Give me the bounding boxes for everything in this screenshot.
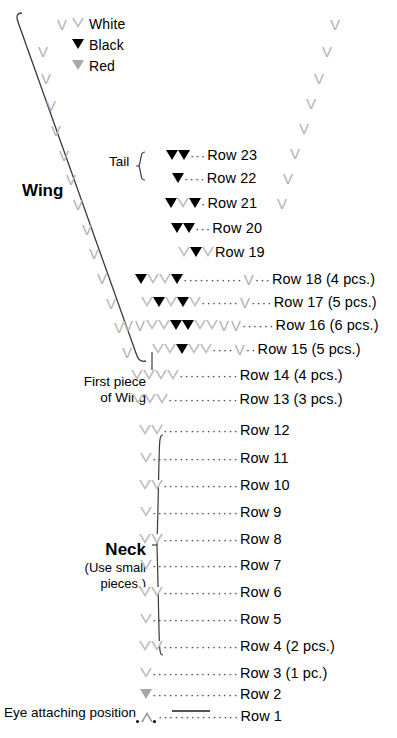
black-triangle-icon (176, 344, 188, 355)
row-11-leader-dots: ················ (152, 453, 239, 464)
row-20-leader-dots: ··· (195, 223, 211, 234)
neck-label: Neck (48, 541, 146, 559)
white-triangle-icon (141, 297, 153, 308)
row-23-symbols (166, 150, 190, 161)
row-4-symbols (139, 641, 163, 652)
white-triangle-icon (167, 370, 179, 381)
legend: White Black Red (72, 13, 125, 76)
row-11: ················Row 11 (140, 451, 289, 465)
row-23: ···Row 23 (166, 148, 257, 162)
row-7-label: Row 7 (240, 558, 282, 573)
white-triangle-icon (151, 480, 163, 491)
row-3-label: Row 3 (1 pc.) (240, 666, 328, 681)
white-triangle-icon (152, 344, 164, 355)
vee-stitch-icon: V (134, 320, 146, 331)
row-16-leader-dots: ······ (242, 320, 275, 331)
row-5-symbols (140, 614, 152, 625)
white-triangle-icon (139, 480, 151, 491)
wing-vee-right-2: V (314, 71, 324, 86)
row-2-symbols (140, 689, 152, 700)
white-triangle-icon (159, 274, 171, 285)
white-triangle-icon (139, 534, 151, 545)
vee-stitch-icon: V (218, 320, 230, 331)
row-22-label: Row 22 (207, 171, 257, 186)
wing-vee-left-2: V (41, 71, 51, 86)
row-10-label: Row 10 (240, 478, 290, 493)
row-12-leader-dots: ·············· (163, 425, 239, 436)
row-17: ·······V····Row 17 (5 pcs.) (141, 295, 377, 309)
white-triangle-icon (139, 425, 151, 436)
tail-label: Tail (109, 154, 129, 169)
wing-vee-right-1: V (322, 44, 332, 59)
row-17-label: Row 17 (5 pcs.) (274, 295, 377, 310)
row-15-label: Row 15 (5 pcs.) (258, 342, 361, 357)
row-15-symbols (152, 344, 212, 355)
row-22-leader-dots: ···· (184, 173, 206, 184)
legend-label-red: Red (89, 59, 115, 73)
tail-bracket (136, 152, 145, 180)
red-triangle-icon (72, 60, 84, 71)
row-10: ··············Row 10 (139, 478, 290, 492)
row-3: ················Row 3 (1 pc.) (140, 666, 327, 680)
wing-vee-right-0: V (330, 17, 340, 32)
wing-label: Wing (22, 182, 63, 200)
row-1-leader-dots: ··············· (158, 711, 239, 722)
white-triangle-icon (194, 320, 206, 331)
wing-vee-right-5: V (290, 146, 300, 161)
row-18-trailing-dots: ··· (255, 274, 271, 285)
row-6-leader-dots: ·············· (163, 587, 239, 598)
white-triangle-icon (140, 507, 152, 518)
wing-vee-right-4: V (299, 121, 309, 136)
legend-label-white: White (89, 17, 125, 31)
row-2: ················Row 2 (140, 687, 281, 701)
black-triangle-icon (135, 274, 147, 285)
row-8-symbols (139, 534, 163, 545)
white-triangle-icon (143, 370, 155, 381)
white-triangle-icon (72, 18, 84, 29)
wing-vee-left-5: V (59, 148, 69, 163)
white-triangle-icon (177, 198, 189, 209)
vee-stitch-icon: V (122, 320, 134, 331)
white-triangle-icon (132, 394, 144, 405)
wing-vee-left-6: V (66, 172, 76, 187)
row-11-label: Row 11 (240, 451, 289, 466)
white-triangle-icon (147, 274, 159, 285)
row-22: ····Row 22 (172, 171, 256, 185)
black-triangle-icon (182, 320, 194, 331)
white-triangle-icon (202, 247, 214, 258)
wing-vee-left-4: V (51, 123, 61, 138)
row-17-leader-dots: ······· (201, 297, 239, 308)
black-triangle-icon (171, 223, 183, 234)
row-14: ···········Row 14 (4 pcs.) (131, 368, 343, 382)
eye-attaching-label: Eye attaching position (4, 705, 136, 720)
row-10-symbols (139, 480, 163, 491)
row-4-label: Row 4 (2 pcs.) (240, 639, 335, 654)
black-triangle-icon (171, 274, 183, 285)
wing-vee-right-3: V (306, 96, 316, 111)
row-8-label: Row 8 (240, 532, 282, 547)
white-triangle-icon (155, 370, 167, 381)
row-15-trailing-dots: ·· (246, 344, 257, 355)
row-13-label: Row 13 (3 pcs.) (240, 392, 343, 407)
white-triangle-icon (140, 453, 152, 464)
neck-note-line1: (Use small (40, 560, 146, 575)
white-triangle-icon (151, 587, 163, 598)
row-19: Row 19 (178, 245, 265, 259)
white-triangle-icon (188, 344, 200, 355)
row-6-symbols (139, 587, 163, 598)
white-triangle-icon (140, 614, 152, 625)
wing-vee-left-11: V (106, 296, 116, 311)
wing-vee-left-9: V (89, 246, 99, 261)
row-1-label: Row 1 (240, 709, 282, 724)
row-15-trailing-vee: V (234, 344, 246, 355)
row-21-leader-dots: · (201, 198, 206, 209)
row-20: ···Row 20 (171, 221, 262, 235)
row-13-symbols (132, 394, 168, 405)
legend-label-black: Black (89, 38, 124, 52)
legend-item-white: White (72, 13, 125, 34)
row-22-symbols (172, 173, 184, 184)
row-17-symbols (141, 297, 201, 308)
wing-vee-left-10: V (97, 271, 107, 286)
legend-item-red: Red (72, 55, 125, 76)
row-13: ·············Row 13 (3 pcs.) (132, 392, 343, 406)
